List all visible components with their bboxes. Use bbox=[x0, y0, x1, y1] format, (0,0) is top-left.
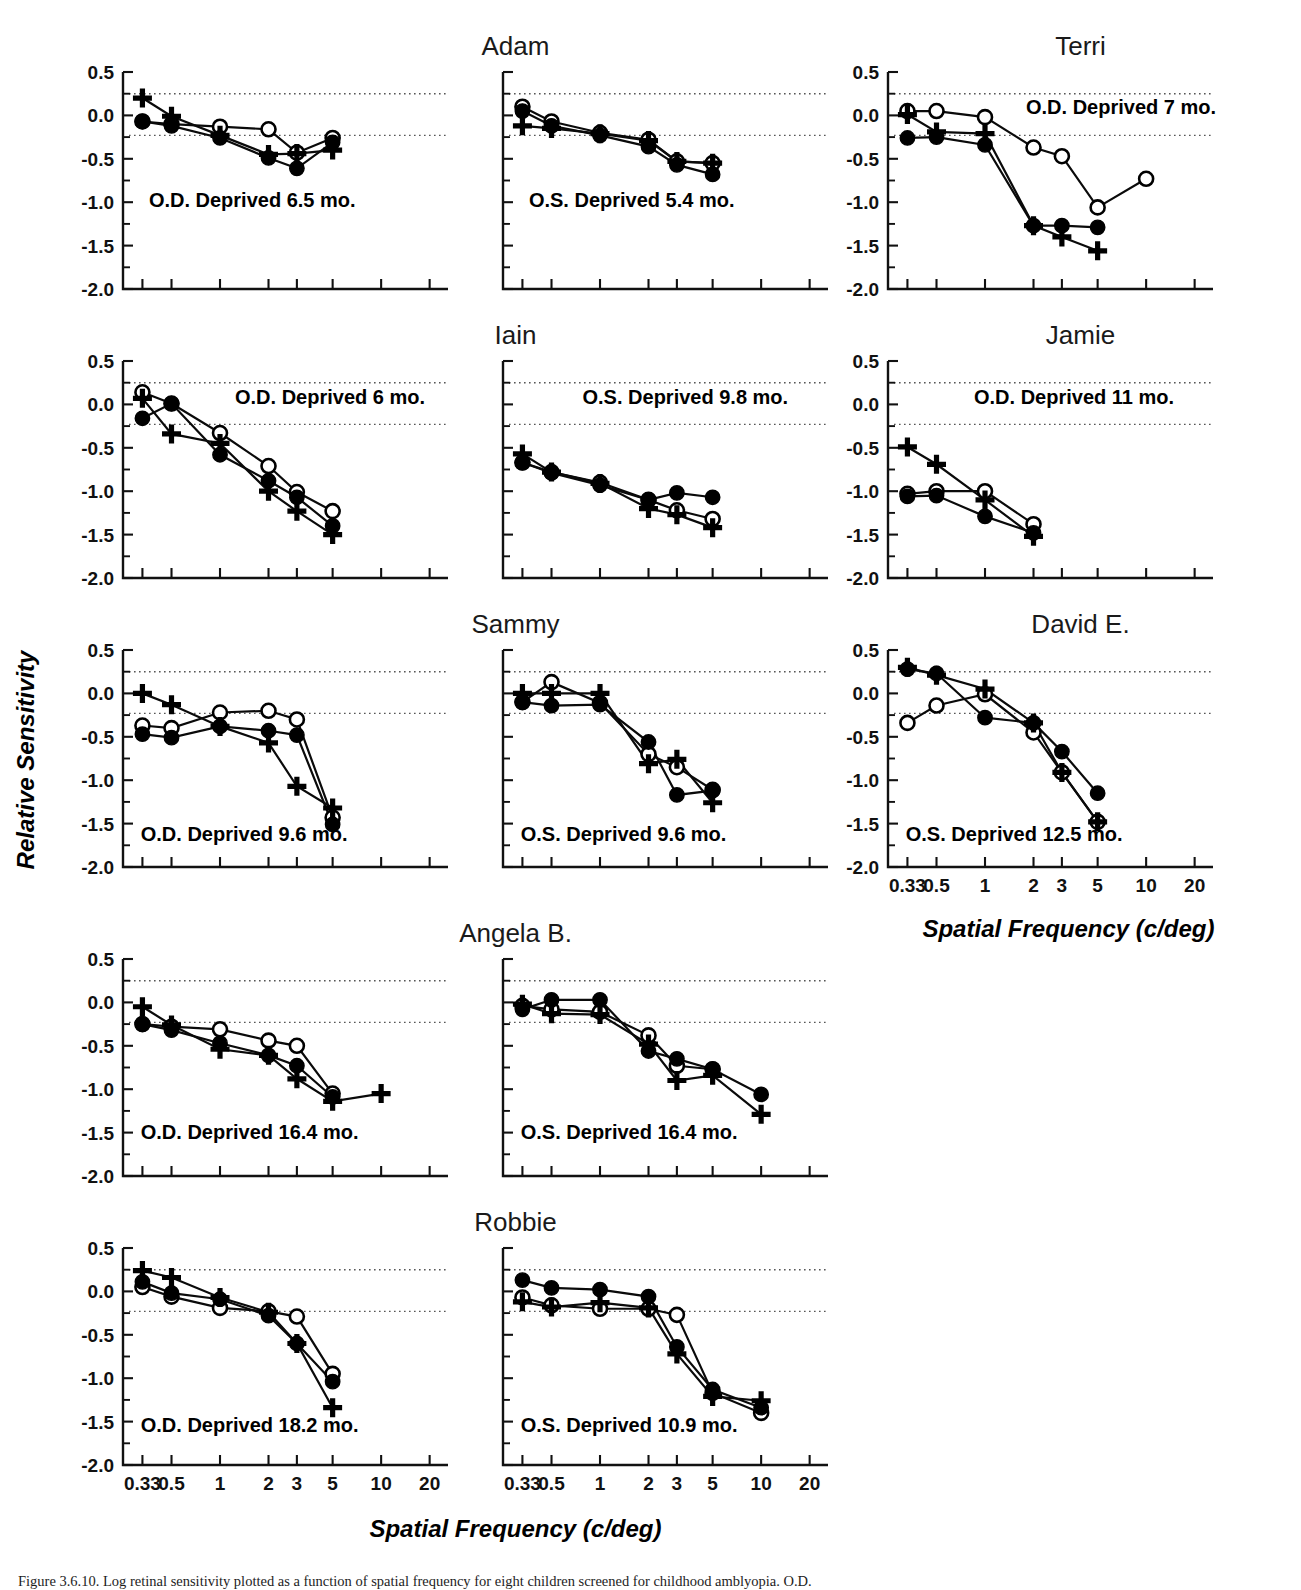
panel-grid: 0.50.0-0.5-1.0-1.5-2.00.50.0-0.5-1.0-1.5… bbox=[81, 31, 1216, 1494]
x-tick-label: 10 bbox=[371, 1473, 392, 1494]
y-tick-label: -1.0 bbox=[81, 770, 114, 791]
y-tick-label: -1.0 bbox=[846, 192, 879, 213]
y-tick-label: -2.0 bbox=[81, 568, 114, 589]
panel-adam-od: 0.50.0-0.5-1.0-1.5-2.0 bbox=[81, 62, 448, 300]
x-tick-label: 20 bbox=[799, 1473, 820, 1494]
y-tick-label: 0.5 bbox=[853, 62, 880, 83]
data-point-plus bbox=[133, 684, 152, 703]
axis-spine bbox=[503, 72, 828, 289]
data-point-plus bbox=[976, 124, 995, 143]
data-point-open-circle bbox=[326, 504, 340, 518]
panel-subject-title: Adam bbox=[482, 31, 550, 61]
data-point-open-circle bbox=[262, 122, 276, 136]
y-tick-label: -1.0 bbox=[81, 1368, 114, 1389]
data-point-filled-circle bbox=[705, 490, 719, 504]
data-point-filled-circle bbox=[1090, 786, 1104, 800]
data-point-filled-circle bbox=[1055, 744, 1069, 758]
x-tick-label: 3 bbox=[1057, 875, 1068, 896]
x-tick-label: 3 bbox=[292, 1473, 303, 1494]
y-tick-label: -0.5 bbox=[81, 1036, 114, 1057]
data-point-filled-circle bbox=[325, 1374, 339, 1388]
data-point-filled-circle bbox=[290, 728, 304, 742]
data-point-open-circle bbox=[262, 459, 276, 473]
data-point-plus bbox=[162, 1268, 181, 1287]
panel-annotation: O.S. Deprived 10.9 mo. bbox=[521, 1414, 738, 1436]
y-tick-label: -1.5 bbox=[846, 525, 879, 546]
data-point-open-circle bbox=[290, 1039, 304, 1053]
y-tick-label: -1.5 bbox=[81, 525, 114, 546]
series-line-plus bbox=[907, 667, 1097, 822]
data-point-filled-circle bbox=[593, 993, 607, 1007]
y-tick-label: -0.5 bbox=[81, 149, 114, 170]
figure-caption: Figure 3.6.10. Log retinal sensitivity p… bbox=[18, 1572, 1288, 1590]
data-point-plus bbox=[287, 502, 306, 521]
data-point-plus bbox=[513, 116, 532, 135]
y-tick-label: 0.5 bbox=[88, 62, 115, 83]
panel-annotation: O.D. Deprived 6.5 mo. bbox=[149, 189, 356, 211]
panel-subject-title: Robbie bbox=[474, 1207, 556, 1237]
panel-subject-title: Terri bbox=[1055, 31, 1106, 61]
y-tick-label: -1.0 bbox=[81, 1079, 114, 1100]
x-tick-label: 20 bbox=[419, 1473, 440, 1494]
data-point-open-circle bbox=[978, 110, 992, 124]
x-tick-label: 1 bbox=[980, 875, 991, 896]
panel-angelab-os bbox=[503, 959, 828, 1176]
data-point-filled-circle bbox=[670, 1052, 684, 1066]
y-tick-label: -2.0 bbox=[81, 857, 114, 878]
data-point-open-circle bbox=[930, 104, 944, 118]
data-point-open-circle bbox=[213, 1022, 227, 1036]
y-tick-label: 0.5 bbox=[88, 640, 115, 661]
data-point-open-circle bbox=[1027, 141, 1041, 155]
data-point-plus bbox=[1024, 216, 1043, 235]
y-tick-label: -1.5 bbox=[81, 1123, 114, 1144]
y-tick-label: -1.5 bbox=[846, 814, 879, 835]
series-line-plus bbox=[522, 1004, 761, 1114]
data-point-filled-circle bbox=[164, 1286, 178, 1300]
y-tick-label: 0.5 bbox=[853, 640, 880, 661]
panel-subject-title: David E. bbox=[1031, 609, 1129, 639]
y-tick-label: 0.0 bbox=[88, 105, 114, 126]
data-point-filled-circle bbox=[544, 1281, 558, 1295]
y-tick-label: -1.5 bbox=[846, 236, 879, 257]
data-point-filled-circle bbox=[754, 1087, 768, 1101]
data-point-plus bbox=[639, 1298, 658, 1317]
data-point-plus bbox=[927, 666, 946, 685]
panel-subject-title: Angela B. bbox=[459, 918, 572, 948]
panel-annotation: O.S. Deprived 9.8 mo. bbox=[583, 386, 789, 408]
y-tick-label: -1.5 bbox=[81, 1412, 114, 1433]
y-axis-label: Relative Sensitivity bbox=[12, 649, 39, 869]
panel-annotation: O.S. Deprived 16.4 mo. bbox=[521, 1121, 738, 1143]
data-point-plus bbox=[703, 154, 722, 173]
axis-spine bbox=[123, 72, 448, 289]
y-tick-label: -1.0 bbox=[81, 481, 114, 502]
panel-robbie-os: 0.330.512351020 bbox=[503, 1248, 828, 1494]
data-point-plus bbox=[898, 658, 917, 677]
x-tick-label: 0.5 bbox=[538, 1473, 565, 1494]
x-tick-label: 0.33 bbox=[889, 875, 926, 896]
data-point-open-circle bbox=[930, 699, 944, 713]
data-point-filled-circle bbox=[978, 509, 992, 523]
y-tick-label: -1.0 bbox=[846, 770, 879, 791]
data-point-plus bbox=[259, 733, 278, 752]
data-point-plus bbox=[1052, 763, 1071, 782]
panel-annotation: O.S. Deprived 9.6 mo. bbox=[521, 823, 727, 845]
panel-annotation: O.S. Deprived 5.4 mo. bbox=[529, 189, 735, 211]
y-tick-label: 0.0 bbox=[88, 394, 114, 415]
x-axis-label-bottom: Spatial Frequency (c/deg) bbox=[369, 1515, 661, 1542]
data-point-filled-circle bbox=[900, 489, 914, 503]
x-tick-label: 0.5 bbox=[158, 1473, 185, 1494]
y-tick-label: -2.0 bbox=[81, 279, 114, 300]
panel-annotation: O.D. Deprived 11 mo. bbox=[974, 386, 1174, 408]
data-point-plus bbox=[372, 1084, 391, 1103]
data-point-filled-circle bbox=[135, 1017, 149, 1031]
data-point-filled-circle bbox=[135, 114, 149, 128]
y-tick-label: -1.0 bbox=[81, 192, 114, 213]
y-tick-label: -2.0 bbox=[846, 857, 879, 878]
data-point-plus bbox=[898, 437, 917, 456]
panel-annotation: O.D. Deprived 7 mo. bbox=[1026, 96, 1216, 118]
y-tick-label: 0.5 bbox=[853, 351, 880, 372]
data-point-filled-circle bbox=[135, 727, 149, 741]
y-tick-label: -0.5 bbox=[846, 149, 879, 170]
panel-annotation: O.D. Deprived 9.6 mo. bbox=[141, 823, 348, 845]
x-tick-label: 0.33 bbox=[504, 1473, 541, 1494]
